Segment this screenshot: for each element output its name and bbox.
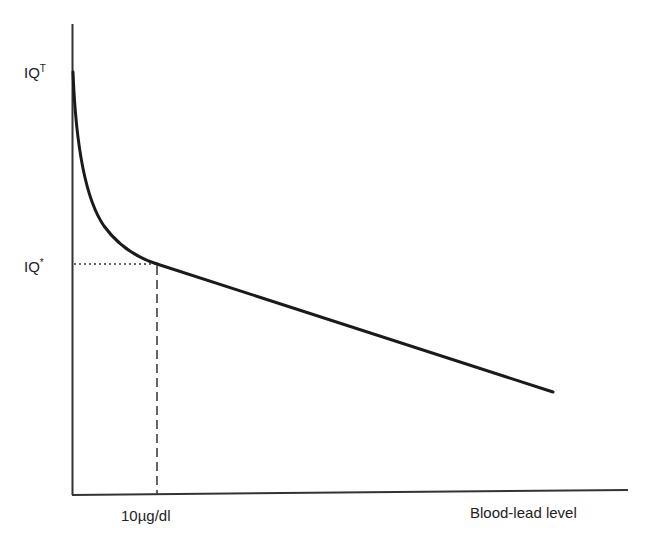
x-tick-threshold-label: 10µg/dl bbox=[121, 508, 171, 523]
iq-linear-decline bbox=[157, 264, 553, 392]
y-label-iq-star-base: IQ bbox=[24, 258, 40, 275]
chart-canvas bbox=[0, 0, 660, 553]
iq-decay-curve bbox=[73, 72, 157, 264]
x-axis-title: Blood-lead level bbox=[470, 505, 577, 520]
y-label-iq-top: IQT bbox=[24, 64, 46, 80]
y-label-iq-top-base: IQ bbox=[24, 64, 40, 81]
y-label-iq-star: IQ* bbox=[24, 258, 44, 274]
y-label-iq-star-mark: * bbox=[40, 257, 44, 268]
y-label-iq-top-mark: T bbox=[40, 63, 46, 74]
x-axis bbox=[72, 490, 628, 495]
